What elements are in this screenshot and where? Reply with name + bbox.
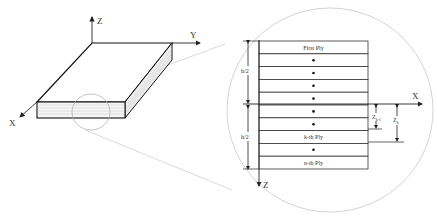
ply-9 [259, 143, 368, 156]
z-axis-label-laminate: Z [263, 180, 269, 190]
ply-label: First Ply [303, 45, 324, 51]
plate-3d: Z Y X [9, 16, 200, 130]
ellipsis-dot [312, 59, 315, 62]
ellipsis-dot [312, 85, 315, 88]
ply-8: k-th Ply [259, 131, 368, 144]
ellipsis-dot [312, 149, 315, 152]
x-axis-label-3d: X [9, 118, 16, 128]
ply-5 [259, 92, 368, 105]
laminate-diagram: Z Y X First Plyk-th Plyn-th Ply X Z h/2 … [0, 0, 437, 221]
h-half-upper-label: h/2 [241, 68, 249, 74]
ply-6 [259, 105, 368, 118]
ellipsis-dot [312, 97, 315, 100]
ellipsis-dot [312, 72, 315, 75]
x-axis-3d [20, 102, 37, 117]
ply-7 [259, 118, 368, 131]
ply-3 [259, 67, 368, 80]
ellipsis-dot [312, 123, 315, 126]
x-axis-label-laminate: X [412, 91, 419, 101]
z-axis-label-3d: Z [97, 16, 103, 26]
plate-front-face [37, 102, 125, 118]
ply-label: k-th Ply [304, 134, 323, 140]
ply-10: n-th Ply [259, 156, 368, 169]
ply-4 [259, 79, 368, 92]
ply-2 [259, 54, 368, 67]
ellipsis-dot [312, 110, 315, 113]
ply-1: First Ply [259, 41, 368, 54]
ply-label: n-th Ply [304, 160, 323, 166]
laminate-stack: First Plyk-th Plyn-th Ply [259, 41, 368, 169]
h-half-lower-label: h/2 [241, 134, 249, 140]
y-axis-label-3d: Y [190, 30, 197, 40]
